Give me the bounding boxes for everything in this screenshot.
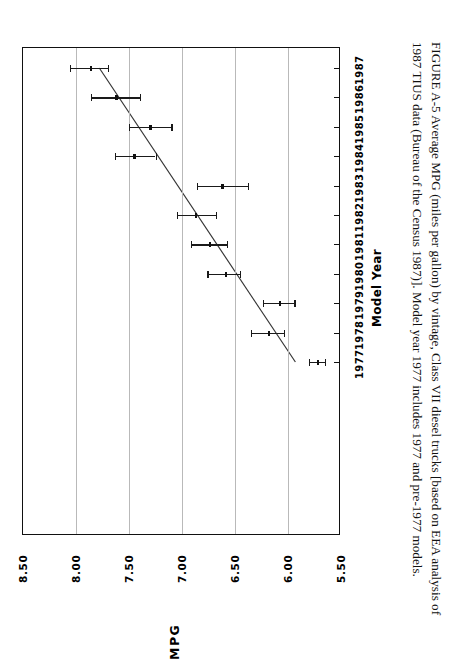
error-bar-cap-1980-high xyxy=(207,271,208,278)
category-tick-label-1979: 1979 xyxy=(354,291,365,320)
data-point-1984 xyxy=(133,154,135,159)
plot-area xyxy=(22,47,340,535)
value-tick-label-7.50: 7.50 xyxy=(123,555,135,583)
gridline-value-7.00 xyxy=(182,48,183,534)
error-bar-cap-1986-high xyxy=(91,94,92,101)
category-tick-1978 xyxy=(334,333,340,334)
data-point-1977 xyxy=(317,360,319,365)
data-point-1980 xyxy=(225,272,227,277)
error-bar-cap-1982-low xyxy=(216,212,217,219)
category-tick-label-1986: 1986 xyxy=(354,85,365,114)
category-tick-1979 xyxy=(334,303,340,304)
value-tick-label-7.00: 7.00 xyxy=(176,555,188,583)
error-bar-cap-1981-low xyxy=(227,241,228,248)
data-point-1982 xyxy=(195,213,197,218)
category-tick-label-1983: 1983 xyxy=(354,173,365,202)
figure-caption-text: FIGURE A-5 Average MPG (miles per gallon… xyxy=(408,42,445,627)
x-axis-title: Model Year xyxy=(370,249,384,327)
category-tick-label-1987: 1987 xyxy=(354,56,365,85)
category-tick-label-1982: 1982 xyxy=(354,203,365,232)
error-bar-cap-1981-high xyxy=(191,241,192,248)
y-axis-title: MPG xyxy=(167,624,182,660)
data-point-1978 xyxy=(268,331,270,336)
category-tick-1977 xyxy=(334,362,340,363)
category-tick-1984 xyxy=(334,156,340,157)
error-bar-cap-1977-high xyxy=(309,359,310,366)
category-tick-label-1980: 1980 xyxy=(354,261,365,290)
data-point-1979 xyxy=(279,301,281,306)
data-point-1986 xyxy=(115,95,117,100)
error-bar-cap-1984-high xyxy=(115,153,116,160)
category-tick-label-1981: 1981 xyxy=(354,232,365,261)
figure-page: 8.508.007.507.006.506.005.50 19771978197… xyxy=(0,0,453,670)
category-tick-1980 xyxy=(334,274,340,275)
error-bar-cap-1983-high xyxy=(197,183,198,190)
error-bar-cap-1977-low xyxy=(325,359,326,366)
category-tick-label-1985: 1985 xyxy=(354,114,365,143)
error-bar-cap-1986-low xyxy=(140,94,141,101)
category-tick-1983 xyxy=(334,186,340,187)
error-bar-cap-1984-low xyxy=(156,153,157,160)
gridline-value-8.50 xyxy=(23,48,24,534)
value-tick-label-6.00: 6.00 xyxy=(282,555,294,583)
gridline-value-6.50 xyxy=(235,48,236,534)
category-tick-label-1977: 1977 xyxy=(354,350,365,379)
data-point-1981 xyxy=(209,242,211,247)
data-point-1985 xyxy=(149,125,151,130)
category-tick-1985 xyxy=(334,127,340,128)
category-tick-label-1984: 1984 xyxy=(354,144,365,173)
error-bar-cap-1979-high xyxy=(263,300,264,307)
category-tick-1987 xyxy=(334,68,340,69)
error-bar-cap-1978-high xyxy=(251,330,252,337)
error-bar-cap-1983-low xyxy=(248,183,249,190)
error-bar-1987 xyxy=(70,68,108,69)
data-point-1987 xyxy=(90,66,92,71)
figure-caption: FIGURE A-5 Average MPG (miles per gallon… xyxy=(385,42,445,627)
value-tick-label-6.50: 6.50 xyxy=(229,555,241,583)
error-bar-cap-1987-low xyxy=(108,65,109,72)
error-bar-cap-1980-low xyxy=(240,271,241,278)
error-bar-cap-1985-low xyxy=(171,124,172,131)
gridline-value-5.50 xyxy=(341,48,342,534)
value-tick-label-8.50: 8.50 xyxy=(17,555,29,583)
category-tick-1986 xyxy=(334,97,340,98)
category-tick-1982 xyxy=(334,215,340,216)
gridline-value-7.50 xyxy=(129,48,130,534)
value-tick-label-5.50: 5.50 xyxy=(335,555,347,583)
data-point-1983 xyxy=(221,184,223,189)
error-bar-cap-1985-high xyxy=(129,124,130,131)
error-bar-cap-1979-low xyxy=(294,300,295,307)
error-bar-cap-1987-high xyxy=(70,65,71,72)
value-tick-label-8.00: 8.00 xyxy=(70,555,82,583)
error-bar-cap-1978-low xyxy=(284,330,285,337)
gridline-value-8.00 xyxy=(76,48,77,534)
gridline-value-6.00 xyxy=(288,48,289,534)
error-bar-cap-1982-high xyxy=(177,212,178,219)
category-tick-label-1978: 1978 xyxy=(354,320,365,349)
category-tick-1981 xyxy=(334,244,340,245)
